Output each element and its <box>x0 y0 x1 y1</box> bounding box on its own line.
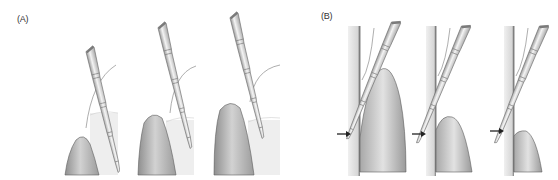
group-a-label: (A) <box>17 14 28 24</box>
panel-b2 <box>410 18 480 176</box>
periodontal-probe <box>493 22 550 145</box>
panel-a1 <box>62 40 120 180</box>
panel-b3 <box>486 18 558 176</box>
panel-a3 <box>210 10 282 180</box>
panel-b1 <box>334 18 414 176</box>
group-b-label: (B) <box>321 11 332 21</box>
panel-a2 <box>134 18 196 180</box>
